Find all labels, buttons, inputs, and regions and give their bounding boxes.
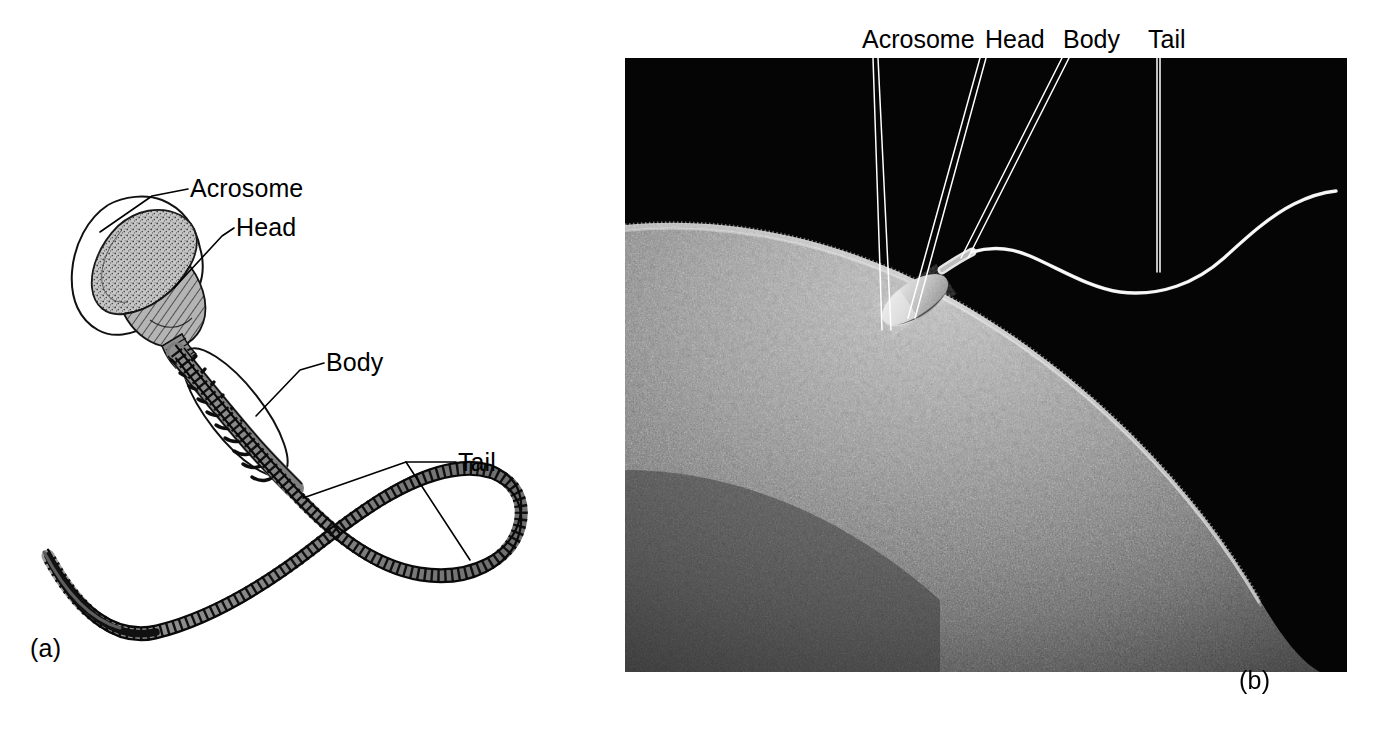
label-acrosome-b: Acrosome [862, 25, 975, 53]
panel-a-drawing: Acrosome Head Body Tail (a) [0, 0, 620, 745]
panel-caption-b: (b) [1239, 668, 1270, 693]
panel-b-micrograph: Acrosome Head Body Tail (b) [620, 0, 1384, 745]
label-acrosome-a: Acrosome [190, 174, 303, 202]
sem-micrograph: Acrosome Head Body Tail [620, 0, 1384, 745]
label-head-a: Head [236, 213, 296, 241]
panel-caption-a: (a) [30, 636, 61, 661]
label-head-b: Head [985, 25, 1045, 53]
label-tail-a: Tail [458, 448, 496, 476]
label-body-b: Body [1063, 25, 1120, 53]
figure-sperm-structure: Acrosome Head Body Tail (a) [0, 0, 1384, 745]
sperm-line-drawing: Acrosome Head Body Tail [0, 0, 620, 745]
label-body-a: Body [326, 348, 384, 376]
label-tail-b: Tail [1148, 25, 1186, 53]
